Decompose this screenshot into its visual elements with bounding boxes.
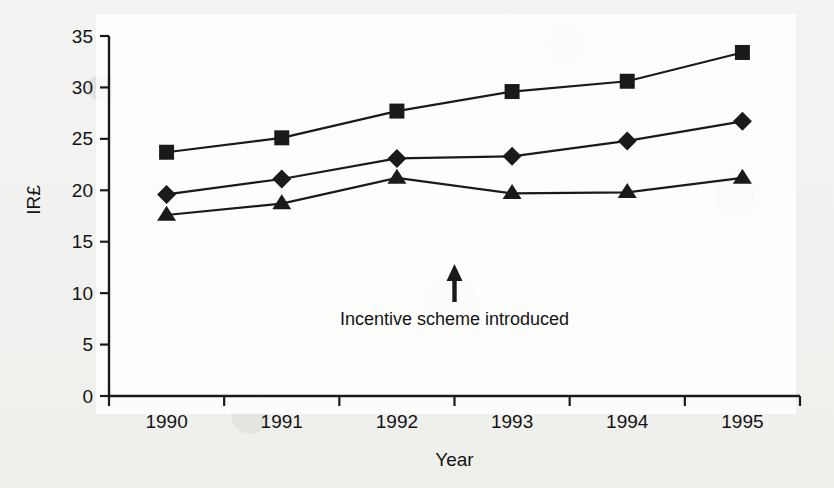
series-diamond bbox=[157, 112, 752, 204]
data-point-triangle bbox=[387, 169, 406, 184]
data-point-diamond bbox=[733, 112, 752, 131]
x-tick-label: 1992 bbox=[376, 411, 418, 432]
x-tick-label: 1993 bbox=[491, 411, 533, 432]
line-chart: 05101520253035 199019911992199319941995 … bbox=[0, 0, 834, 488]
data-point-triangle bbox=[733, 169, 752, 184]
data-point-diamond bbox=[272, 169, 291, 188]
series-line bbox=[167, 52, 743, 152]
data-point-square bbox=[620, 74, 635, 89]
data-point-diamond bbox=[157, 185, 176, 204]
data-point-square bbox=[389, 104, 404, 119]
y-tick-group: 05101520253035 bbox=[72, 26, 109, 407]
y-tick-label: 30 bbox=[72, 77, 93, 98]
series-group bbox=[157, 45, 752, 221]
x-tick-label: 1991 bbox=[261, 411, 303, 432]
data-point-square bbox=[159, 145, 174, 160]
y-tick-label: 0 bbox=[82, 386, 93, 407]
data-point-diamond bbox=[387, 149, 406, 168]
y-tick-label: 20 bbox=[72, 180, 93, 201]
x-axis-group: 199019911992199319941995 bbox=[109, 396, 800, 432]
y-axis-group: 05101520253035 bbox=[72, 26, 109, 407]
chart-figure: 05101520253035 199019911992199319941995 … bbox=[0, 0, 834, 488]
data-point-triangle bbox=[157, 206, 176, 221]
x-tick-label: 1994 bbox=[606, 411, 649, 432]
data-point-square bbox=[735, 45, 750, 60]
series-square bbox=[159, 45, 750, 160]
data-point-square bbox=[274, 130, 289, 145]
data-point-diamond bbox=[618, 131, 637, 150]
y-tick-label: 10 bbox=[72, 283, 93, 304]
annotation-group: Incentive scheme introduced bbox=[340, 264, 569, 329]
series-line bbox=[167, 121, 743, 194]
x-axis-title: Year bbox=[435, 449, 474, 470]
up-arrow-icon bbox=[447, 264, 463, 302]
y-tick-label: 25 bbox=[72, 128, 93, 149]
y-tick-label: 35 bbox=[72, 26, 93, 47]
x-tick-group: 199019911992199319941995 bbox=[109, 396, 800, 432]
x-tick-label: 1995 bbox=[721, 411, 763, 432]
y-axis-title: IR£ bbox=[23, 185, 44, 215]
annotation-label: Incentive scheme introduced bbox=[340, 309, 569, 329]
y-tick-label: 5 bbox=[82, 334, 93, 355]
series-triangle bbox=[157, 169, 752, 221]
y-tick-label: 15 bbox=[72, 231, 93, 252]
data-point-square bbox=[505, 84, 520, 99]
data-point-diamond bbox=[503, 147, 522, 166]
x-tick-label: 1990 bbox=[145, 411, 187, 432]
